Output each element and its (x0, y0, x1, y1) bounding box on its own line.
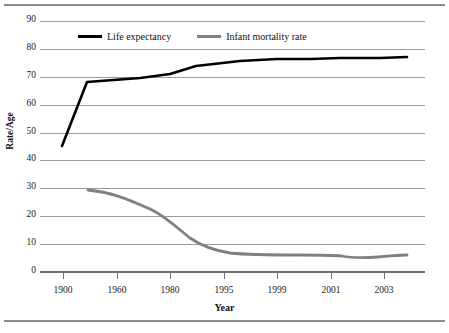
x-tick-label-1960: 1960 (94, 285, 140, 295)
legend-swatch-infant-mortality (197, 35, 221, 38)
y-tick-label-10: 10 (10, 237, 36, 247)
y-tick-label-80: 80 (10, 42, 36, 52)
x-tick-label-2001: 2001 (308, 285, 354, 295)
chart-legend: Life expectancy Infant mortality rate (78, 31, 307, 42)
y-tick-label-0: 0 (10, 265, 36, 275)
legend-item-infant-mortality[interactable]: Infant mortality rate (197, 31, 307, 42)
y-tick-label-70: 70 (10, 70, 36, 80)
legend-label-infant-mortality: Infant mortality rate (226, 31, 307, 42)
series-line-infant-mortality (88, 190, 407, 258)
x-tick-label-2003: 2003 (361, 285, 407, 295)
y-tick-label-90: 90 (10, 14, 36, 24)
x-axis-ticks (63, 272, 384, 279)
x-tick-label-1995: 1995 (201, 285, 247, 295)
gridlines (40, 21, 425, 244)
y-axis-title: Rate/Age (5, 99, 15, 163)
y-tick-label-20: 20 (10, 209, 36, 219)
x-tick-label-1900: 1900 (40, 285, 86, 295)
y-tick-label-30: 30 (10, 181, 36, 191)
legend-item-life-expectancy[interactable]: Life expectancy (78, 31, 171, 42)
x-tick-label-1980: 1980 (147, 285, 193, 295)
plot-area (0, 0, 449, 333)
chart-figure: 90 80 70 60 50 40 30 20 10 0 1900 1960 1… (0, 0, 449, 333)
legend-swatch-life-expectancy (78, 35, 102, 38)
x-axis-title: Year (0, 302, 449, 313)
x-tick-label-1999: 1999 (254, 285, 300, 295)
legend-label-life-expectancy: Life expectancy (107, 31, 171, 42)
